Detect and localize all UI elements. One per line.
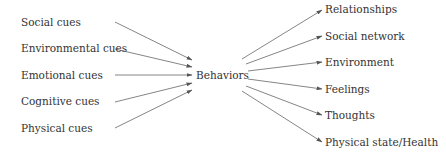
center-label-behaviors: Behaviors xyxy=(196,69,249,81)
arrow-relationships xyxy=(242,10,322,59)
input-label-social-cues: Social cues xyxy=(21,16,81,28)
arrow-feelings xyxy=(248,79,322,89)
output-label-environment: Environment xyxy=(325,56,394,68)
arrow-physical-state-health xyxy=(242,91,322,142)
arrow-physical-cues xyxy=(115,90,192,128)
output-label-social-network: Social network xyxy=(325,30,405,42)
arrow-social-cues xyxy=(115,22,192,60)
output-label-physical-state-health: Physical state/Health xyxy=(325,136,438,148)
output-label-thoughts: Thoughts xyxy=(325,109,375,121)
input-label-physical-cues: Physical cues xyxy=(21,122,93,134)
arrow-environment xyxy=(248,62,322,71)
input-label-cognitive-cues: Cognitive cues xyxy=(21,95,100,107)
input-label-emotional-cues: Emotional cues xyxy=(21,69,103,81)
arrow-cognitive-cues xyxy=(115,83,192,102)
output-label-feelings: Feelings xyxy=(325,83,370,95)
input-label-environmental-cues: Environmental cues xyxy=(21,42,127,54)
cue-behavior-diagram: Social cues Environmental cues Emotional… xyxy=(0,0,446,157)
output-label-relationships: Relationships xyxy=(325,3,397,15)
